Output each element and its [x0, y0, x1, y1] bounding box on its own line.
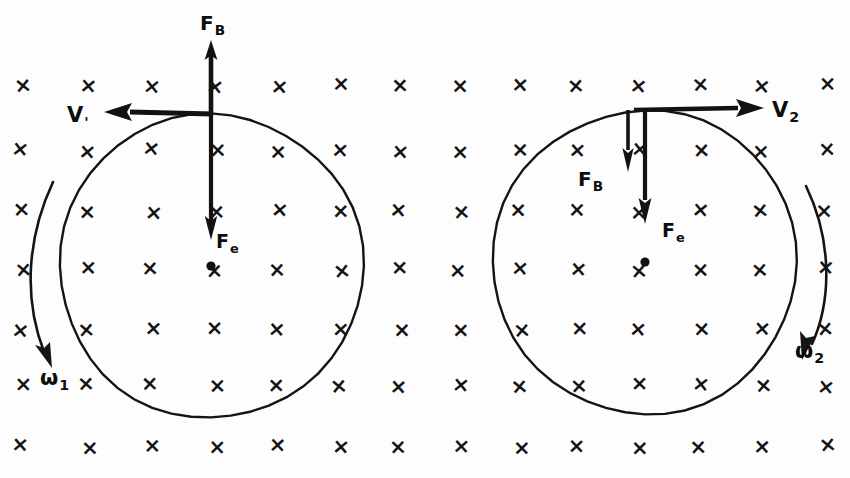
field-cross: ×: [451, 74, 469, 98]
field-cross: ×: [205, 73, 225, 99]
field-cross: ×: [511, 137, 529, 161]
label-v-2-right-subscript: 2: [789, 109, 799, 125]
field-cross: ×: [267, 373, 285, 397]
field-cross: ×: [270, 197, 290, 222]
label-v-2-right: V2: [772, 98, 799, 125]
label-omega-1-symbol: ω: [40, 366, 58, 390]
field-cross: ×: [389, 434, 408, 459]
field-cross: ×: [568, 197, 586, 221]
field-cross: ×: [269, 140, 287, 164]
field-cross: ×: [510, 255, 529, 280]
diagram-canvas: ××××××××××××××××××××××××××××××××××××××××…: [0, 0, 850, 478]
magnetic-field-grid: ××××××××××××××××××××××××××××××××××××××××…: [10, 71, 838, 460]
field-cross: ×: [267, 317, 286, 342]
field-cross: ×: [691, 72, 710, 97]
field-cross: ×: [144, 316, 163, 341]
force-electric-vector-left: [205, 116, 217, 240]
label-omega-1-subscript: 1: [59, 377, 69, 393]
field-cross: ×: [452, 318, 470, 342]
field-cross: ×: [391, 255, 409, 279]
field-cross: ×: [391, 73, 410, 98]
sphere-2-center-dot: [640, 257, 649, 266]
sphere-1-center-dot: [206, 261, 215, 270]
label-omega-2-symbol: ω: [795, 339, 813, 363]
field-cross: ×: [511, 72, 530, 97]
field-cross: ×: [692, 138, 711, 163]
label-f-e-right-symbol: F: [662, 219, 675, 241]
field-cross: ×: [81, 436, 99, 460]
field-cross: ×: [332, 199, 350, 223]
field-cross: ×: [332, 71, 351, 96]
field-cross: ×: [753, 434, 772, 459]
label-f-b-right: FB: [578, 167, 603, 194]
field-cross: ×: [449, 258, 467, 282]
label-f-b-left-symbol: F: [200, 11, 214, 35]
field-cross: ×: [566, 73, 585, 98]
sphere-2-group: [493, 99, 826, 414]
field-cross: ×: [691, 197, 711, 223]
field-cross: ×: [14, 372, 32, 396]
field-cross: ×: [751, 139, 769, 164]
field-cross: ×: [819, 71, 837, 95]
label-f-b-right-subscript: B: [593, 178, 603, 194]
label-omega-2-subscript: 2: [814, 350, 824, 366]
field-cross: ×: [270, 74, 290, 99]
field-cross: ×: [628, 73, 648, 99]
field-cross: ×: [205, 258, 224, 283]
field-cross: ×: [268, 432, 287, 457]
field-cross: ×: [691, 257, 709, 282]
field-cross: ×: [144, 200, 164, 225]
physics-diagram: ××××××××××××××××××××××××××××××××××××××××…: [0, 0, 850, 478]
field-cross: ×: [452, 199, 471, 224]
field-cross: ×: [628, 316, 647, 341]
field-cross: ×: [692, 316, 711, 341]
field-cross: ×: [331, 434, 351, 459]
field-cross: ×: [389, 374, 408, 399]
label-v-1-left-symbol: V: [67, 103, 84, 127]
field-cross: ×: [331, 137, 350, 162]
field-cross: ×: [206, 316, 224, 340]
field-cross: ×: [513, 436, 531, 460]
field-cross: ×: [451, 140, 469, 165]
label-f-e-left: Fe: [216, 230, 239, 256]
field-cross: ×: [142, 73, 162, 99]
field-cross: ×: [391, 139, 411, 164]
velocity-vector-right: [634, 99, 764, 117]
label-f-e-right: Fe: [662, 219, 685, 245]
label-f-b-left-subscript: B: [215, 22, 225, 38]
field-cross: ×: [11, 432, 30, 457]
field-cross: ×: [631, 436, 649, 460]
field-cross: ×: [12, 197, 31, 222]
field-cross: ×: [754, 373, 773, 398]
label-f-b-right-symbol: F: [578, 167, 592, 191]
field-cross: ×: [11, 317, 31, 343]
angular-velocity-arc-left: [31, 182, 53, 368]
field-cross: ×: [817, 136, 836, 161]
field-cross: ×: [567, 434, 585, 459]
field-cross: ×: [451, 372, 471, 398]
field-cross: ×: [509, 373, 529, 399]
field-cross: ×: [631, 371, 649, 395]
field-cross: ×: [691, 371, 711, 397]
field-cross: ×: [816, 374, 836, 400]
label-f-e-left-subscript: e: [230, 241, 239, 256]
field-cross: ×: [13, 72, 33, 98]
field-cross: ×: [78, 200, 96, 224]
field-cross: ×: [141, 371, 160, 396]
field-cross: ×: [509, 198, 527, 222]
label-omega-2: ω2: [795, 339, 824, 366]
field-cross: ×: [393, 318, 411, 342]
field-cross: ×: [10, 136, 30, 162]
field-cross: ×: [268, 257, 287, 282]
field-cross: ×: [208, 435, 226, 459]
field-cross: ×: [78, 139, 98, 164]
field-cross: ×: [753, 316, 772, 341]
field-cross: ×: [689, 434, 708, 459]
label-v-2-right-symbol: V: [772, 98, 789, 122]
velocity-vector-left: [104, 103, 213, 121]
field-cross: ×: [452, 434, 471, 459]
field-cross: ×: [750, 197, 770, 223]
field-cross: ×: [78, 73, 98, 99]
label-f-b-left: FB: [200, 11, 225, 38]
field-cross: ×: [76, 371, 95, 396]
